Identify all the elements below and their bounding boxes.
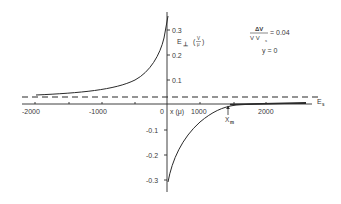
xm-label-sub: m [230, 120, 234, 125]
x-tick-label-m1000: -1000 [89, 108, 107, 115]
y-axis-frac-den: μ [197, 42, 200, 47]
y-axis-label-main: E [177, 38, 182, 45]
y-tick-label-03: 0.3 [172, 27, 182, 34]
curve-right-negative [168, 104, 306, 183]
y-tick-label-m03: -0.3 [146, 177, 158, 184]
ratio-denominator-sub: s [265, 38, 267, 43]
ratio-value: = 0.04 [270, 29, 290, 36]
y-tick-label-02: 0.2 [172, 52, 182, 59]
y-axis-label-sub: ⊥ [183, 41, 188, 47]
y-tick-label-01: 0.1 [172, 77, 182, 84]
y-axis-paren-open: ( [193, 38, 196, 46]
es-label-sub: s [322, 102, 325, 107]
x-tick-label-m2000: -2000 [22, 108, 40, 115]
y-axis-frac-num: V [197, 36, 200, 41]
y-tick-label-m02: -0.2 [146, 152, 158, 159]
chart: -2000 -1000 0 x (μ) 1000 2000 0.3 0.2 0.… [0, 0, 341, 204]
x-tick-label-0: 0 [160, 108, 164, 115]
x-axis-unit: x (μ) [170, 108, 184, 116]
x-tick-label-1000: 1000 [191, 108, 207, 115]
ratio-numerator: ΔV [255, 26, 263, 32]
y-axis-paren-close: ) [202, 38, 204, 46]
y-condition: y = 0 [262, 47, 277, 55]
curve-left-positive [36, 16, 168, 95]
y-tick-label-m01: -0.1 [146, 127, 158, 134]
ratio-denominator: V V [250, 35, 260, 41]
x-tick-label-2000: 2000 [258, 108, 274, 115]
